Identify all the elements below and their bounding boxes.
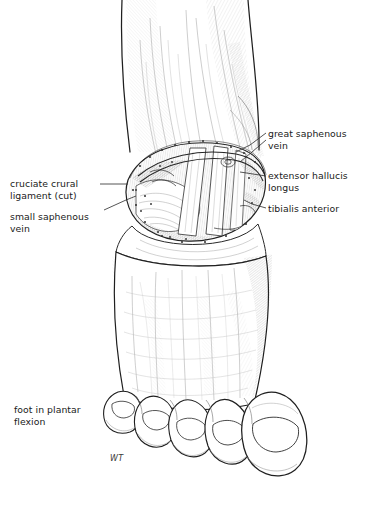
label-foot-in-plantar-flexion: foot in plantar flexion <box>14 404 118 427</box>
label-tibialis-anterior: tibialis anterior <box>268 203 364 215</box>
label-small-saphenous-vein: small saphenous vein <box>10 211 114 234</box>
artist-monogram: WT <box>110 454 124 463</box>
label-extensor-hallucis-longus: extensor hallucis longus <box>268 170 364 193</box>
anatomical-figure: WT great saphenous vein extensor halluci… <box>0 0 366 515</box>
monogram-text: WT <box>110 454 124 463</box>
foot-dorsum <box>104 224 276 410</box>
label-great-saphenous-vein: great saphenous vein <box>268 128 364 151</box>
label-cruciate-crural-ligament: cruciate crural ligament (cut) <box>10 178 114 201</box>
toe-hallux <box>242 392 307 476</box>
foot-dissection-drawing: WT <box>0 0 366 515</box>
